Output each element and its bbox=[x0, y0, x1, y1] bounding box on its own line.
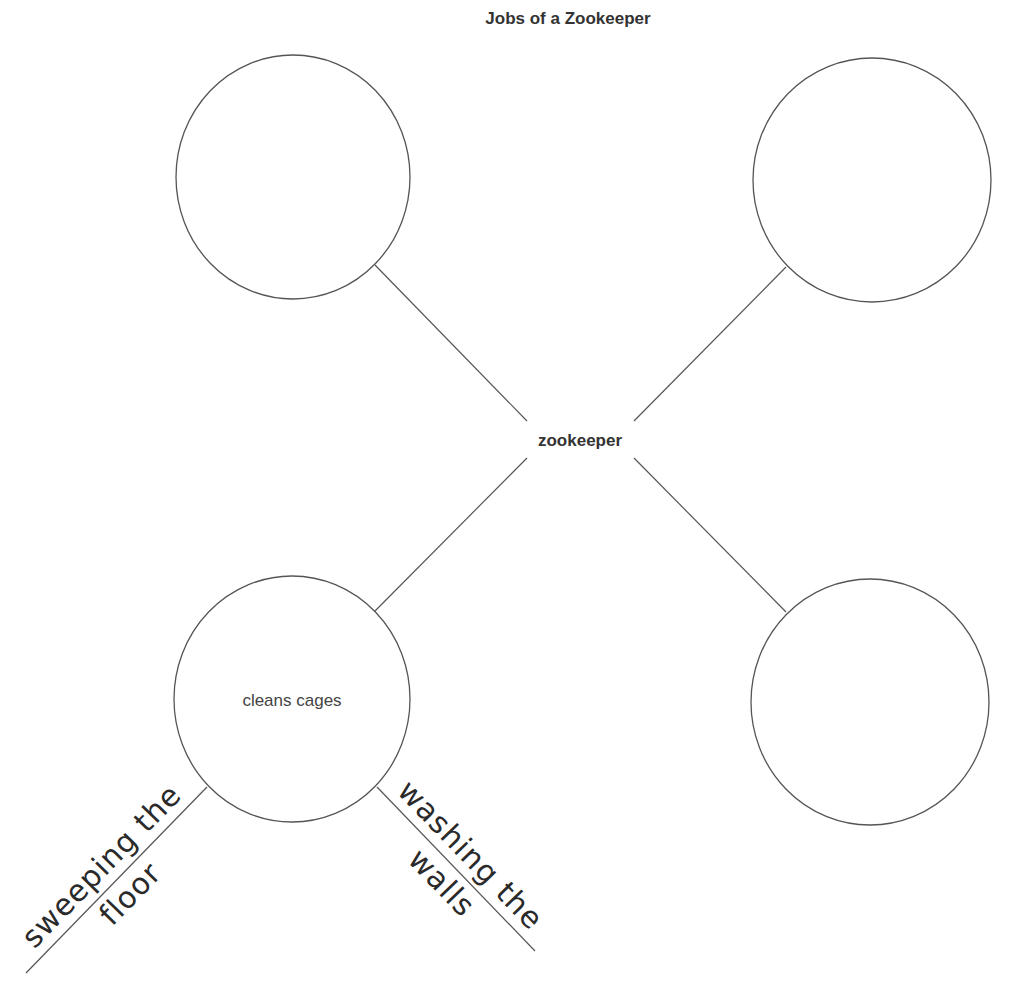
node-circle bbox=[176, 55, 410, 299]
sub-branch-text-line1: sweeping the bbox=[14, 777, 188, 954]
connector-top-left bbox=[375, 265, 527, 421]
sub-branch-washing: washing the walls bbox=[362, 773, 551, 964]
diagram-title: Jobs of a Zookeeper bbox=[485, 9, 651, 28]
sub-branch-line bbox=[26, 787, 207, 973]
node-label: cleans cages bbox=[242, 691, 341, 710]
node-top-right[interactable] bbox=[753, 58, 991, 302]
web-diagram: Jobs of a Zookeeper zookeeper cleans cag… bbox=[0, 0, 1015, 1008]
node-top-left[interactable] bbox=[176, 55, 410, 299]
sub-branch-sweeping: sweeping the floor bbox=[14, 777, 216, 982]
sub-branch-line bbox=[377, 787, 535, 951]
connector-bottom-left bbox=[375, 458, 527, 611]
connector-top-right bbox=[634, 267, 786, 421]
node-bottom-left[interactable]: cleans cages bbox=[174, 576, 410, 822]
node-circle bbox=[753, 58, 991, 302]
center-label: zookeeper bbox=[538, 431, 622, 450]
connector-bottom-right bbox=[634, 458, 786, 612]
node-circle bbox=[751, 579, 989, 825]
node-bottom-right[interactable] bbox=[751, 579, 989, 825]
